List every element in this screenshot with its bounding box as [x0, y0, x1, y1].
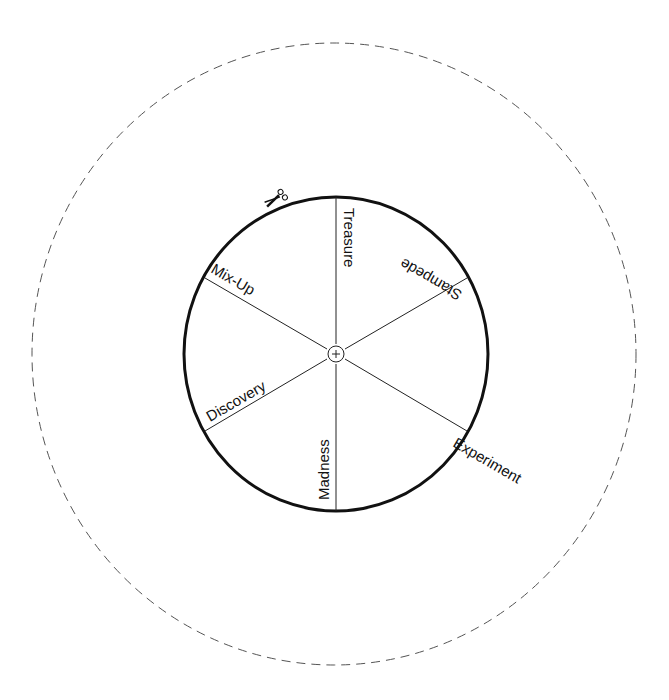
segment-label-madness: Madness [315, 439, 332, 500]
segment-label-stampede: Stampede [397, 255, 465, 304]
segment-label-experiment-visible: Experiment [451, 434, 526, 487]
segment-label-mixup: Mix-Up [209, 260, 259, 298]
segment-label-treasure: Treasure [341, 208, 358, 267]
crosshair-circle-icon [328, 346, 344, 362]
spinner-wheel-template: Treasure Stampede Experiment Experiment … [0, 0, 669, 700]
segment-label-discovery: Discovery [203, 377, 269, 425]
